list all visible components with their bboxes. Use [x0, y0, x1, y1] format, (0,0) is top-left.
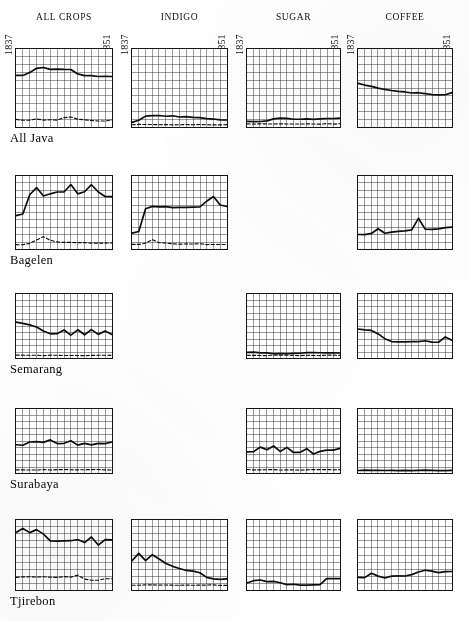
- panel-gridlines: [16, 176, 113, 250]
- panel-gridlines: [358, 49, 453, 128]
- panel-gridlines: [358, 176, 453, 250]
- series-line-solid-series: [16, 322, 112, 335]
- panel-plot: [131, 175, 228, 250]
- panel-plot: [246, 519, 341, 591]
- series-line-solid-series: [358, 570, 452, 578]
- panel-plot: [246, 408, 341, 474]
- panel-all-java-coffee: [357, 48, 453, 128]
- series-line-solid-series: [16, 67, 112, 76]
- panel-gridlines: [16, 409, 113, 474]
- figure-sheet: ALL CROPS18371851INDIGO18371851SUGAR1837…: [0, 0, 469, 621]
- series-line-solid-series: [16, 440, 112, 445]
- series-line-solid-series: [358, 83, 452, 95]
- panel-tjirebon-sugar: [246, 519, 341, 591]
- column-title-3: SUGAR: [246, 12, 341, 22]
- series-line-solid-series: [358, 218, 452, 234]
- panel-gridlines: [358, 520, 453, 591]
- row-label-5: Tjirebon: [10, 594, 55, 609]
- panel-surabaya-coffee: [357, 408, 453, 474]
- series-line-dashed-series: [247, 124, 340, 125]
- panel-plot: [15, 408, 113, 474]
- panel-plot: [246, 48, 341, 128]
- panel-gridlines: [358, 294, 453, 359]
- panel-bagelen-coffee: [357, 175, 453, 250]
- panel-surabaya-sugar: [246, 408, 341, 474]
- column-title-2: INDIGO: [131, 12, 228, 22]
- panel-gridlines: [358, 409, 453, 474]
- panel-gridlines: [16, 294, 113, 359]
- panel-tjirebon-indigo: [131, 519, 228, 591]
- panel-gridlines: [247, 294, 341, 359]
- panel-gridlines: [16, 49, 113, 128]
- panel-semarang-coffee: [357, 293, 453, 359]
- panel-frame: [16, 294, 113, 359]
- row-label-3: Semarang: [10, 362, 62, 377]
- series-line-dashed-series: [16, 237, 112, 245]
- panel-plot: [357, 519, 453, 591]
- panel-tjirebon-coffee: [357, 519, 453, 591]
- panel-plot: [15, 48, 113, 128]
- series-line-dashed-series: [16, 470, 112, 471]
- panel-plot: [357, 408, 453, 474]
- row-label-1: All Java: [10, 131, 54, 146]
- year-start-label-1: 1837: [3, 34, 14, 55]
- panel-plot: [357, 293, 453, 359]
- series-line-dashed-series: [16, 575, 112, 580]
- panel-all-java-all-crops: [15, 48, 113, 128]
- panel-gridlines: [132, 176, 228, 250]
- panel-surabaya-all-crops: [15, 408, 113, 474]
- series-line-dashed-series: [247, 470, 340, 471]
- column-title-1: ALL CROPS: [15, 12, 113, 22]
- column-title-4: COFFEE: [357, 12, 453, 22]
- row-label-2: Bagelen: [10, 253, 53, 268]
- panel-all-java-sugar: [246, 48, 341, 128]
- panel-bagelen-all-crops: [15, 175, 113, 250]
- series-line-dashed-series: [16, 117, 112, 121]
- panel-gridlines: [247, 49, 341, 128]
- year-start-label-3: 1837: [234, 34, 245, 55]
- series-line-dashed-series: [16, 355, 112, 356]
- year-start-label-2: 1837: [119, 34, 130, 55]
- panel-semarang-all-crops: [15, 293, 113, 359]
- panel-plot: [131, 519, 228, 591]
- panel-plot: [357, 48, 453, 128]
- panel-frame: [16, 49, 113, 128]
- panel-bagelen-indigo: [131, 175, 228, 250]
- series-line-solid-series: [358, 329, 452, 342]
- panel-all-java-indigo: [131, 48, 228, 128]
- panel-plot: [246, 293, 341, 359]
- panel-tjirebon-all-crops: [15, 519, 113, 591]
- panel-plot: [15, 293, 113, 359]
- panel-plot: [15, 519, 113, 591]
- panel-plot: [15, 175, 113, 250]
- panel-plot: [131, 48, 228, 128]
- panel-gridlines: [247, 409, 341, 474]
- panel-frame: [16, 409, 113, 474]
- row-label-4: Surabaya: [10, 477, 59, 492]
- panel-plot: [357, 175, 453, 250]
- series-line-solid-series: [16, 185, 112, 216]
- series-line-solid-series: [16, 528, 112, 545]
- panel-gridlines: [132, 520, 228, 591]
- year-start-label-4: 1837: [345, 34, 356, 55]
- panel-semarang-sugar: [246, 293, 341, 359]
